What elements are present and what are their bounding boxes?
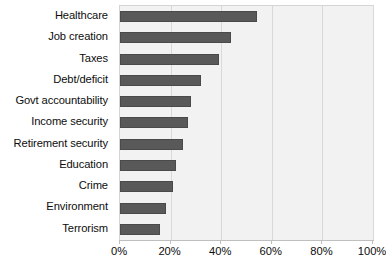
category-label: Environment: [0, 196, 114, 217]
category-label: Terrorism: [0, 218, 114, 239]
category-label: Crime: [0, 175, 114, 196]
x-tick-label: 40%: [209, 246, 231, 257]
x-tick: [271, 240, 272, 244]
bar: [120, 54, 219, 65]
x-tick-label: 60%: [260, 246, 282, 257]
bar-series: [120, 6, 373, 240]
bar: [120, 96, 191, 107]
bar-row: [120, 197, 373, 218]
bar-row: [120, 70, 373, 91]
bar: [120, 75, 201, 86]
x-tick: [119, 240, 120, 244]
category-label: Govt accountability: [0, 90, 114, 111]
bar: [120, 181, 173, 192]
category-label: Debt/deficit: [0, 69, 114, 90]
x-tick-label: 0%: [111, 246, 127, 257]
x-tick: [220, 240, 221, 244]
x-tick: [372, 240, 373, 244]
x-tick-label: 100%: [358, 246, 386, 257]
bar-row: [120, 134, 373, 155]
x-tick-label: 80%: [310, 246, 332, 257]
x-tick-label: 20%: [158, 246, 180, 257]
bar-row: [120, 176, 373, 197]
bar-row: [120, 49, 373, 70]
x-tick: [170, 240, 171, 244]
bar-row: [120, 27, 373, 48]
category-label: Taxes: [0, 48, 114, 69]
bar-row: [120, 112, 373, 133]
category-label: Income security: [0, 111, 114, 132]
x-axis-tick-labels: 0%20%40%60%80%100%: [119, 246, 372, 266]
bar-row: [120, 6, 373, 27]
category-label: Job creation: [0, 26, 114, 47]
x-axis-ticks: [119, 240, 372, 245]
bar-row: [120, 219, 373, 240]
bar-row: [120, 91, 373, 112]
plot-area: [119, 5, 374, 241]
bar: [120, 139, 183, 150]
bar: [120, 224, 160, 235]
bar: [120, 117, 188, 128]
category-label: Healthcare: [0, 5, 114, 26]
category-label: Retirement security: [0, 133, 114, 154]
category-label: Education: [0, 154, 114, 175]
category-axis: HealthcareJob creationTaxesDebt/deficitG…: [0, 5, 114, 239]
bar: [120, 11, 257, 22]
bar-row: [120, 155, 373, 176]
bar: [120, 203, 166, 214]
bar: [120, 160, 176, 171]
bar: [120, 32, 231, 43]
gridline: [373, 6, 374, 240]
x-tick: [321, 240, 322, 244]
